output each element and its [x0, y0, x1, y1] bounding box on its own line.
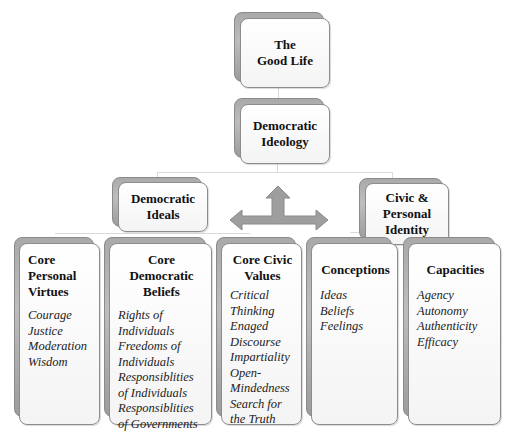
list-item: Thinking — [230, 304, 295, 320]
list-item: Freedoms of — [118, 339, 205, 355]
node-democratic-ideals[interactable]: Democratic Ideals — [112, 177, 208, 232]
list-item: Impartiality — [230, 350, 295, 366]
node-capacities[interactable]: Capacities Agency Autonomy Authenticity … — [403, 237, 501, 425]
list-item: Moderation — [28, 339, 93, 355]
node-box: Civic & Personal Identity — [365, 183, 449, 245]
list-item: Search for — [230, 397, 295, 413]
node-box: The Good Life — [240, 18, 330, 88]
list-item: Responsiblities — [118, 370, 205, 386]
node-core-democratic-beliefs[interactable]: Core Democratic Beliefs Rights of Indivi… — [104, 237, 212, 425]
list-item: Mindedness — [230, 381, 295, 397]
node-box: Capacities Agency Autonomy Authenticity … — [408, 243, 501, 425]
list-item: Open- — [230, 366, 295, 382]
list-item: Wisdom — [28, 355, 93, 371]
list-item: Autonomy — [417, 304, 494, 320]
list-item: of Governments — [118, 417, 205, 433]
item-list: Rights of Individuals Freedoms of Indivi… — [118, 308, 205, 432]
list-item: Courage — [28, 308, 93, 324]
node-box: Democratic Ideology — [240, 104, 330, 164]
list-item: Individuals — [118, 324, 205, 340]
item-list: Courage Justice Moderation Wisdom — [28, 308, 93, 370]
list-item: of Individuals — [118, 386, 205, 402]
list-item: Individuals — [118, 355, 205, 371]
node-title: Core Civic Values — [230, 252, 295, 284]
node-box: Core Civic Values Critical Thinking Enag… — [221, 243, 302, 425]
node-civic-personal-identity[interactable]: Civic & Personal Identity — [359, 178, 449, 245]
item-list: Critical Thinking Enaged Discourse Impar… — [230, 288, 295, 428]
node-title: Core Democratic Beliefs — [118, 252, 205, 300]
list-item: Critical — [230, 288, 295, 304]
item-list: Ideas Beliefs Feelings — [320, 288, 391, 335]
node-title: Conceptions — [320, 262, 391, 278]
list-item: Agency — [417, 288, 494, 304]
node-the-good-life[interactable]: The Good Life — [234, 12, 330, 88]
node-title: Democratic Ideology — [253, 118, 317, 150]
node-title: Capacities — [417, 262, 494, 278]
list-item: Authenticity — [417, 319, 494, 335]
node-conceptions[interactable]: Conceptions Ideas Beliefs Feelings — [306, 237, 398, 425]
connector-ideology-horizontal — [157, 172, 393, 173]
node-core-civic-values[interactable]: Core Civic Values Critical Thinking Enag… — [216, 237, 302, 425]
node-title: Democratic Ideals — [131, 191, 195, 223]
node-title: The Good Life — [257, 37, 313, 69]
node-box: Democratic Ideals — [118, 182, 208, 232]
node-core-personal-virtues[interactable]: Core Personal Virtues Courage Justice Mo… — [14, 237, 100, 425]
node-box: Conceptions Ideas Beliefs Feelings — [311, 243, 398, 425]
list-item: Beliefs — [320, 304, 391, 320]
list-item: Ideas — [320, 288, 391, 304]
list-item: Discourse — [230, 335, 295, 351]
list-item: Responsiblities — [118, 401, 205, 417]
connector-ideals-horizontal — [55, 233, 250, 234]
list-item: Feelings — [320, 319, 391, 335]
node-democratic-ideology[interactable]: Democratic Ideology — [234, 98, 330, 164]
list-item: Justice — [28, 324, 93, 340]
list-item: Enaged — [230, 319, 295, 335]
list-item: the Truth — [230, 412, 295, 428]
node-title: Civic & Personal Identity — [383, 190, 431, 238]
three-way-arrow-icon — [228, 180, 330, 236]
list-item: Rights of — [118, 308, 205, 324]
node-box: Core Democratic Beliefs Rights of Indivi… — [109, 243, 212, 425]
list-item: Efficacy — [417, 335, 494, 351]
item-list: Agency Autonomy Authenticity Efficacy — [417, 288, 494, 350]
node-title: Core Personal Virtues — [28, 252, 93, 300]
node-box: Core Personal Virtues Courage Justice Mo… — [19, 243, 100, 425]
